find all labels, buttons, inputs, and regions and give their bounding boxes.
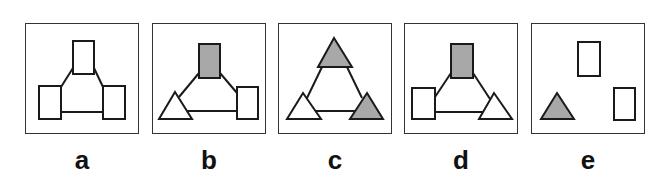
empty-rectangle-icon (614, 88, 635, 120)
connector-line (179, 73, 199, 97)
connector-line (347, 67, 362, 98)
connector-line (220, 73, 237, 93)
empty-triangle-icon (479, 93, 512, 119)
option-label-e: e (531, 146, 645, 174)
option-panel-b[interactable] (152, 23, 266, 134)
empty-rectangle-icon (73, 41, 94, 74)
option-panel-a[interactable] (25, 23, 139, 134)
connector-line (435, 73, 451, 97)
option-panel-c[interactable] (278, 23, 392, 134)
figure-c (278, 23, 392, 134)
shaded-rectangle-icon (451, 44, 473, 78)
figure-e (531, 23, 645, 134)
shaded-rectangle-icon (199, 44, 220, 78)
connector-line (61, 68, 73, 87)
option-panel-e[interactable] (531, 23, 645, 134)
figure-a (25, 23, 139, 134)
shaded-triangle-icon (541, 93, 574, 119)
empty-rectangle-icon (39, 86, 61, 119)
empty-triangle-icon (159, 92, 192, 119)
connector-line (94, 68, 103, 87)
empty-rectangle-icon (103, 86, 125, 119)
empty-rectangle-icon (578, 42, 600, 76)
connector-line (307, 67, 322, 98)
connector-line (473, 73, 490, 99)
shaded-triangle-icon (350, 93, 383, 119)
empty-triangle-icon (287, 93, 321, 119)
empty-rectangle-icon (237, 87, 258, 119)
option-panel-d[interactable] (404, 23, 518, 134)
option-label-b: b (152, 146, 266, 174)
option-label-a: a (25, 146, 139, 174)
shaded-triangle-icon (318, 38, 352, 67)
figure-d (404, 23, 518, 134)
figure-b (152, 23, 266, 134)
option-label-c: c (278, 146, 392, 174)
option-label-d: d (404, 146, 518, 174)
empty-rectangle-icon (412, 88, 435, 119)
